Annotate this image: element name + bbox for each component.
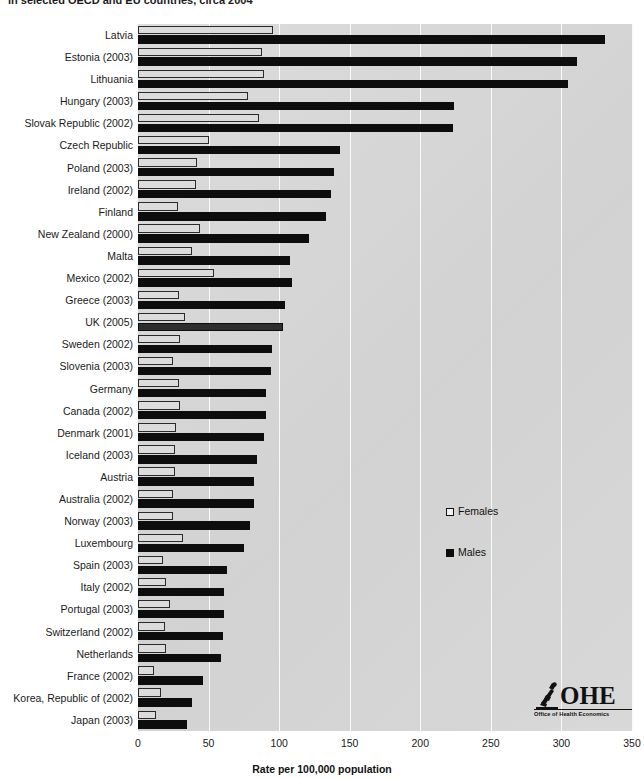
chart-row: Portugal (2003) — [0, 598, 644, 620]
legend-label-females: Females — [458, 505, 498, 517]
bar-males — [138, 80, 568, 88]
bar-females — [138, 622, 165, 630]
bar-males — [138, 35, 605, 43]
bar-females — [138, 92, 248, 100]
chart-row: Austria — [0, 466, 644, 488]
bar-females — [138, 534, 183, 542]
chart-row: Netherlands — [0, 643, 644, 665]
bar-males — [138, 698, 192, 706]
bar-males — [138, 301, 285, 309]
chart-row: Switzerland (2002) — [0, 621, 644, 643]
bar-males — [138, 544, 244, 552]
bar-females — [138, 401, 180, 409]
category-label: Mexico (2002) — [0, 267, 138, 289]
x-tick-label: 350 — [623, 737, 641, 749]
category-label: Australia (2002) — [0, 488, 138, 510]
bar-females — [138, 269, 214, 277]
category-label: Ireland (2002) — [0, 179, 138, 201]
bar-females — [138, 600, 170, 608]
chart-row: Mexico (2002) — [0, 267, 644, 289]
bar-females — [138, 711, 156, 719]
category-label: Estonia (2003) — [0, 46, 138, 68]
category-label: New Zealand (2000) — [0, 223, 138, 245]
category-label: Lithuania — [0, 68, 138, 90]
bar-males — [138, 720, 187, 728]
bar-males — [138, 632, 223, 640]
bar-males — [138, 256, 290, 264]
bar-females — [138, 490, 173, 498]
bar-females — [138, 666, 154, 674]
chart-row: Italy (2002) — [0, 576, 644, 598]
bar-females — [138, 512, 173, 520]
bar-males — [138, 168, 334, 176]
chart-row: Ireland (2002) — [0, 179, 644, 201]
bar-females — [138, 379, 179, 387]
x-tick-label: 150 — [341, 737, 359, 749]
bar-females — [138, 467, 175, 475]
bar-females — [138, 335, 180, 343]
x-axis-ticks: 050100150200250300350 — [138, 737, 632, 755]
category-label: Sweden (2002) — [0, 333, 138, 355]
bar-females — [138, 158, 197, 166]
bar-males — [138, 499, 254, 507]
bar-males — [138, 521, 250, 529]
bar-females — [138, 644, 166, 652]
chart-row: Greece (2003) — [0, 289, 644, 311]
category-label: UK (2005) — [0, 311, 138, 333]
bar-males — [138, 323, 283, 331]
bar-females — [138, 180, 196, 188]
category-label: Finland — [0, 201, 138, 223]
chart-row: Lithuania — [0, 68, 644, 90]
bar-males — [138, 234, 309, 242]
ohe-subtitle: Office of Health Economics — [534, 711, 609, 717]
category-label: Norway (2003) — [0, 510, 138, 532]
bar-males — [138, 212, 326, 220]
bar-females — [138, 556, 163, 564]
ohe-logo: OHE Office of Health Economics — [530, 681, 634, 725]
males-swatch-icon — [446, 549, 454, 557]
category-label: France (2002) — [0, 665, 138, 687]
bar-females — [138, 70, 264, 78]
chart-row: New Zealand (2000) — [0, 223, 644, 245]
x-axis-title: Rate per 100,000 population — [0, 763, 644, 775]
chart-page: in selected OECD and EU countries, circa… — [0, 0, 644, 778]
bar-males — [138, 588, 224, 596]
ohe-wordmark: OHE — [560, 683, 616, 709]
category-label: Canada (2002) — [0, 400, 138, 422]
bar-males — [138, 389, 266, 397]
ohe-divider — [534, 709, 632, 710]
chart-row: Latvia — [0, 24, 644, 46]
bar-males — [138, 610, 224, 618]
chart-row: Poland (2003) — [0, 157, 644, 179]
bar-females — [138, 423, 176, 431]
category-label: Germany — [0, 378, 138, 400]
bar-females — [138, 26, 273, 34]
bar-females — [138, 313, 185, 321]
bar-males — [138, 654, 221, 662]
category-label: Netherlands — [0, 643, 138, 665]
chart-row: Slovenia (2003) — [0, 355, 644, 377]
category-label: Malta — [0, 245, 138, 267]
bar-males — [138, 433, 264, 441]
bar-males — [138, 367, 271, 375]
bar-females — [138, 357, 173, 365]
x-tick-label: 100 — [270, 737, 288, 749]
bar-males — [138, 566, 227, 574]
bar-females — [138, 247, 192, 255]
legend-item-females: Females — [446, 505, 498, 517]
bar-females — [138, 291, 179, 299]
chart-title-text: in selected OECD and EU countries, circa… — [8, 0, 428, 6]
chart-row: Sweden (2002) — [0, 333, 644, 355]
chart-row: UK (2005) — [0, 311, 644, 333]
category-label: Austria — [0, 466, 138, 488]
bar-males — [138, 278, 292, 286]
category-label: Japan (2003) — [0, 709, 138, 731]
bar-males — [138, 676, 203, 684]
chart-row: Denmark (2001) — [0, 422, 644, 444]
bar-chart: LatviaEstonia (2003)LithuaniaHungary (20… — [0, 18, 644, 778]
chart-row: Australia (2002) — [0, 488, 644, 510]
legend-item-males: Males — [446, 546, 486, 558]
category-label: Korea, Republic of (2002) — [0, 687, 138, 709]
category-label: Denmark (2001) — [0, 422, 138, 444]
category-label: Poland (2003) — [0, 157, 138, 179]
